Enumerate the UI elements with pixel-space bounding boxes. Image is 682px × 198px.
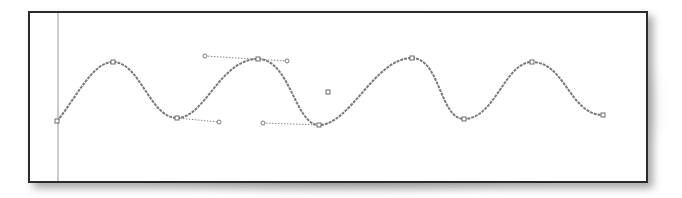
handle-endpoint-icon[interactable]	[203, 54, 207, 58]
anchor-point-icon[interactable]	[317, 123, 321, 127]
bezier-canvas[interactable]	[0, 0, 682, 198]
handle-endpoints[interactable]	[203, 54, 289, 125]
anchor-point-icon[interactable]	[410, 56, 414, 60]
handle-line[interactable]	[205, 56, 287, 61]
center-point-icon	[326, 90, 330, 94]
anchor-point-icon[interactable]	[111, 60, 115, 64]
anchor-point-icon[interactable]	[462, 117, 466, 121]
handle-endpoint-icon[interactable]	[285, 59, 289, 63]
handle-line[interactable]	[177, 118, 219, 122]
handle-endpoint-icon[interactable]	[217, 120, 221, 124]
anchor-point-icon[interactable]	[55, 119, 59, 123]
anchor-point-icon[interactable]	[601, 113, 605, 117]
direction-handles[interactable]	[177, 56, 319, 125]
anchor-point-icon[interactable]	[530, 60, 534, 64]
handle-endpoint-icon[interactable]	[261, 121, 265, 125]
anchor-point-icon[interactable]	[256, 57, 260, 61]
anchor-point-icon[interactable]	[175, 116, 179, 120]
handle-line[interactable]	[263, 123, 319, 125]
